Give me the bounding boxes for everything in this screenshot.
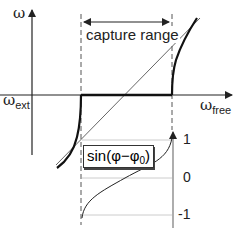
omega-ext-sub: ext xyxy=(15,99,30,111)
inset-tick-0: 0 xyxy=(183,169,191,185)
sin-sub: 0 xyxy=(139,155,145,166)
sin-suffix: ) xyxy=(145,147,150,164)
inset-tick-1: 1 xyxy=(183,131,191,147)
omega-symbol: ω xyxy=(13,4,25,22)
omega-ext-label: ωext xyxy=(3,91,30,109)
left-branch-curve xyxy=(57,95,81,168)
omega-free-label: ωfree xyxy=(200,96,231,114)
sin-prefix: sin(φ−φ xyxy=(87,147,139,164)
omega-axis-label: ω xyxy=(13,4,25,22)
capture-range-label: capture range xyxy=(85,26,180,43)
omega-free-sub: free xyxy=(212,104,231,116)
omega-ext-main: ω xyxy=(3,91,15,109)
sin-function-label: sin(φ−φ0) xyxy=(83,145,154,168)
omega-free-main: ω xyxy=(200,96,212,114)
capture-range-diagram: ω ωext ωfree capture range sin(φ−φ0) 1 0… xyxy=(0,0,239,229)
inset-tick-minus1: -1 xyxy=(178,206,190,222)
